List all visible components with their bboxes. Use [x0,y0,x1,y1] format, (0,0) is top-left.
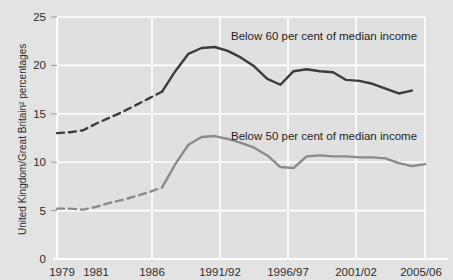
y-tick-label-15: 15 [33,108,46,120]
x-tick-label-1981: 1981 [83,266,109,278]
chart-figure: 25 20 15 10 5 0 United Kingdom/Great Bri… [0,0,453,280]
y-tick-label-20: 20 [33,59,46,71]
x-tick-label-1991-92: 1991/92 [199,266,241,278]
x-tick-label-1996-97: 1996/97 [267,266,309,278]
series-label-below-50: Below 50 per cent of median income [231,130,417,142]
x-tick-label-2005-06: 2005/06 [400,266,442,278]
x-tick-label-2001-02: 2001/02 [335,266,377,278]
x-tick-label-1979: 1979 [49,266,75,278]
line-chart: 25 20 15 10 5 0 United Kingdom/Great Bri… [0,0,453,280]
y-tick-label-10: 10 [33,156,46,168]
x-tick-label-1986: 1986 [139,266,165,278]
y-tick-label-0: 0 [40,253,46,265]
y-tick-label-25: 25 [33,11,46,23]
series-label-below-60: Below 60 per cent of median income [231,30,417,42]
y-axis-title: United Kingdom/Great Britain² percentage… [17,44,28,235]
y-tick-label-5: 5 [40,205,46,217]
